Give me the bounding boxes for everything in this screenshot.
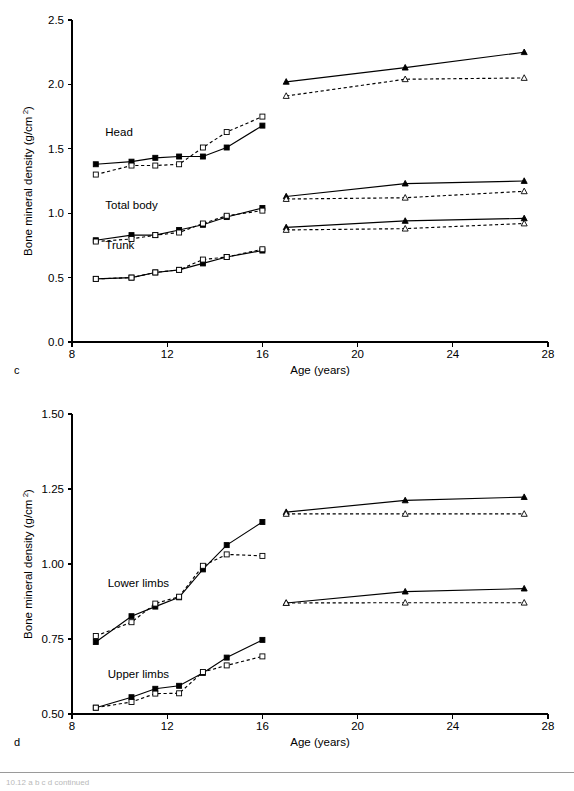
- y-axis-tick-label: 1.5: [48, 143, 64, 155]
- marker-open-triangle: [521, 511, 527, 517]
- y-axis-title-text: Bone mineral density (g/cm 2): [21, 489, 34, 639]
- panel-letter: c: [14, 364, 20, 376]
- y-axis-tick-label: 1.25: [42, 483, 64, 495]
- marker-open-square: [224, 130, 229, 135]
- y-axis-title: Bone mineral density (g/cm 2): [21, 106, 34, 256]
- series-annotation-label: Lower limbs: [108, 577, 170, 589]
- x-axis-tick-label: 20: [351, 720, 364, 732]
- marker-filled-triangle: [521, 49, 527, 55]
- marker-open-square: [153, 691, 158, 696]
- marker-open-square: [153, 163, 158, 168]
- marker-open-square: [177, 594, 182, 599]
- marker-open-square: [153, 601, 158, 606]
- y-axis-tick-label: 0.75: [42, 633, 64, 645]
- marker-filled-square: [153, 155, 158, 160]
- data-series: [283, 188, 527, 201]
- marker-open-square: [129, 620, 134, 625]
- marker-filled-square: [260, 637, 265, 642]
- series-annotation-label: Trunk: [105, 239, 134, 251]
- y-axis-title-text: Bone mineral density (g/cm 2): [21, 106, 34, 256]
- x-axis-tick-label: 8: [69, 720, 75, 732]
- marker-filled-square: [224, 145, 229, 150]
- marker-open-square: [93, 634, 98, 639]
- y-axis-tick-label: 2.5: [48, 14, 64, 26]
- marker-open-square: [129, 163, 134, 168]
- marker-filled-square: [200, 154, 205, 159]
- marker-filled-square: [177, 683, 182, 688]
- x-axis-tick-label: 12: [161, 720, 174, 732]
- y-axis-tick-label: 0.50: [42, 708, 64, 720]
- marker-open-square: [93, 239, 98, 244]
- chart-panel-c: 0.00.51.01.52.02.581216202428Age (years)…: [0, 0, 574, 396]
- marker-open-square: [153, 270, 158, 275]
- marker-filled-square: [260, 123, 265, 128]
- footer-caption: 10.12 a b c d continued: [6, 778, 306, 790]
- x-axis-title: Age (years): [290, 364, 350, 376]
- marker-open-square: [260, 553, 265, 558]
- marker-open-triangle: [521, 600, 527, 606]
- chart-c-canvas: 0.00.51.01.52.02.581216202428Age (years)…: [0, 0, 574, 396]
- marker-open-square: [177, 162, 182, 167]
- data-series: [93, 114, 265, 177]
- footer-divider: [0, 772, 574, 773]
- chart-panel-d: 0.500.751.001.251.5081216202428Age (year…: [0, 396, 574, 766]
- marker-open-square: [224, 254, 229, 259]
- y-axis-tick-label: 2.0: [48, 78, 64, 90]
- marker-open-square: [224, 552, 229, 557]
- marker-open-square: [177, 691, 182, 696]
- y-axis-title: Bone mineral density (g/cm 2): [21, 489, 34, 639]
- marker-filled-square: [177, 154, 182, 159]
- marker-filled-square: [129, 614, 134, 619]
- y-axis-title-base: Bone mineral density (g/cm: [22, 117, 34, 256]
- x-axis-tick-label: 24: [446, 348, 459, 360]
- marker-open-square: [93, 705, 98, 710]
- marker-filled-square: [153, 686, 158, 691]
- marker-filled-square: [93, 640, 98, 645]
- series-line: [96, 249, 263, 279]
- marker-open-square: [93, 276, 98, 281]
- x-axis-tick-label: 28: [542, 720, 555, 732]
- x-axis-tick-label: 20: [351, 348, 364, 360]
- marker-open-square: [224, 663, 229, 668]
- y-axis-title-tail: ): [22, 489, 34, 493]
- x-axis-title: Age (years): [290, 736, 350, 748]
- x-axis-tick-label: 16: [256, 720, 269, 732]
- y-axis-tick-label: 0.0: [48, 336, 64, 348]
- marker-open-triangle: [521, 188, 527, 194]
- y-axis-tick-label: 1.50: [42, 408, 64, 420]
- marker-open-square: [153, 233, 158, 238]
- y-axis-tick-label: 1.00: [42, 558, 64, 570]
- data-series: [93, 654, 265, 710]
- marker-open-square: [177, 230, 182, 235]
- y-axis-tick-label: 0.5: [48, 272, 64, 284]
- marker-open-square: [177, 267, 182, 272]
- x-axis-tick-label: 16: [256, 348, 269, 360]
- figure-bone-mineral-density: 0.00.51.01.52.02.581216202428Age (years)…: [0, 0, 574, 791]
- chart-d-canvas: 0.500.751.001.251.5081216202428Age (year…: [0, 396, 574, 766]
- marker-open-square: [129, 275, 134, 280]
- data-series: [93, 248, 265, 281]
- marker-filled-square: [260, 520, 265, 525]
- marker-open-square: [200, 257, 205, 262]
- x-axis-tick-label: 8: [69, 348, 75, 360]
- y-axis-tick-label: 1.0: [48, 207, 64, 219]
- series-annotation-label: Upper limbs: [108, 668, 170, 680]
- y-axis-title-base: Bone mineral density (g/cm: [22, 500, 34, 639]
- marker-open-triangle: [521, 75, 527, 81]
- marker-open-square: [200, 563, 205, 568]
- series-annotation-label: Head: [105, 126, 133, 138]
- marker-open-square: [200, 670, 205, 675]
- x-axis-tick-label: 28: [542, 348, 555, 360]
- panel-letter: d: [14, 736, 20, 748]
- data-series: [93, 247, 265, 282]
- marker-open-square: [93, 172, 98, 177]
- marker-open-square: [129, 700, 134, 705]
- marker-filled-square: [224, 543, 229, 548]
- marker-open-square: [260, 208, 265, 213]
- y-axis-title-tail: ): [22, 106, 34, 110]
- marker-filled-square: [224, 655, 229, 660]
- x-axis-tick-label: 12: [161, 348, 174, 360]
- marker-filled-square: [129, 695, 134, 700]
- marker-open-square: [260, 654, 265, 659]
- marker-open-square: [200, 145, 205, 150]
